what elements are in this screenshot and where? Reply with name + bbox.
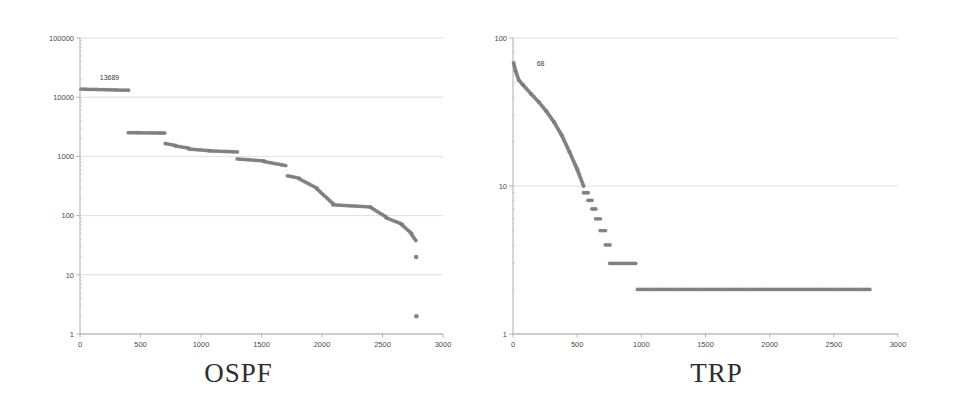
x-tick-label: 500 (571, 340, 584, 349)
y-tick-label: 1000 (57, 152, 74, 161)
y-tick-label: 10 (66, 271, 74, 280)
y-tick-label: 10 (499, 182, 507, 191)
plot-area-ospf: 1101001000100001000000500100015002000250… (0, 0, 477, 360)
data-annotation-label: 13689 (100, 74, 120, 81)
x-tick-label: 1000 (633, 340, 650, 349)
data-annotation-label: 68 (537, 60, 545, 67)
x-tick-label: 0 (78, 340, 82, 349)
x-tick-label: 1500 (253, 340, 270, 349)
x-tick-label: 0 (511, 340, 515, 349)
x-tick-label: 1000 (193, 340, 210, 349)
chart-title-ospf: OSPF (0, 358, 477, 389)
data-point-group (79, 87, 418, 318)
outlier-point (414, 255, 419, 260)
x-tick-label: 1500 (697, 340, 714, 349)
data-point-group (512, 61, 872, 291)
chart-title-trp: TRP (478, 358, 955, 389)
figure-root: 1101001000100001000000500100015002000250… (0, 0, 955, 409)
y-tick-label: 100000 (49, 34, 74, 43)
x-tick-label: 2500 (374, 340, 391, 349)
y-tick-label: 100 (61, 211, 74, 220)
y-tick-label: 100 (494, 34, 507, 43)
chart-panel-trp: 11010005001000150020002500300068 TRP (478, 0, 955, 409)
plot-area-trp: 11010005001000150020002500300068 (478, 0, 955, 360)
y-tick-label: 1 (503, 330, 507, 339)
x-tick-label: 2500 (825, 340, 842, 349)
chart-svg-ospf: 1101001000100001000000500100015002000250… (0, 0, 477, 360)
x-tick-label: 3000 (435, 340, 452, 349)
x-tick-label: 500 (134, 340, 147, 349)
x-tick-label: 2000 (314, 340, 331, 349)
x-tick-label: 2000 (761, 340, 778, 349)
y-tick-label: 1 (70, 330, 74, 339)
y-tick-label: 10000 (53, 93, 74, 102)
chart-panel-ospf: 1101001000100001000000500100015002000250… (0, 0, 477, 409)
x-tick-label: 3000 (890, 340, 907, 349)
chart-svg-trp: 11010005001000150020002500300068 (478, 0, 955, 360)
outlier-point (414, 314, 419, 319)
